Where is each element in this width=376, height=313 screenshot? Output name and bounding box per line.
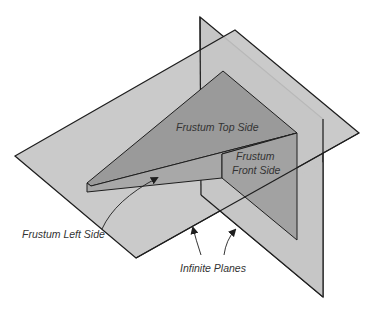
label-infinite-planes: Infinite Planes	[180, 262, 247, 274]
label-frustum-front-side-line2: Front Side	[232, 164, 281, 176]
arrow-plane-vertical	[224, 230, 235, 255]
label-frustum-top-side: Frustum Top Side	[176, 121, 259, 133]
frustum-diagram: Frustum Top Side Frustum Front Side Frus…	[0, 0, 376, 313]
label-frustum-left-side: Frustum Left Side	[22, 228, 105, 240]
label-frustum-front-side-line1: Frustum	[236, 150, 275, 162]
arrow-plane-horizontal	[193, 228, 201, 255]
